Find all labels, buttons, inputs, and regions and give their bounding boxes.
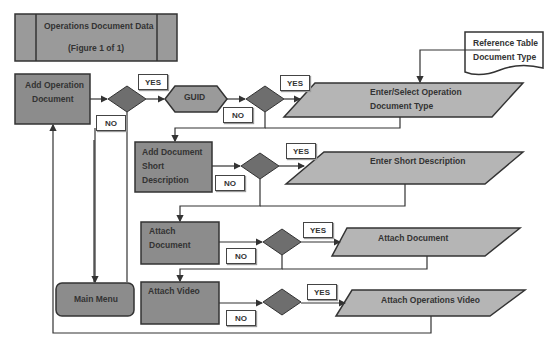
yes-label-1: YES [138, 74, 168, 90]
title-line2: (Figure 1 of 1) [68, 42, 124, 55]
enter-select-l1[interactable]: Enter/Select Operation [370, 86, 462, 99]
enter-select-l2[interactable]: Document Type [370, 100, 433, 113]
add-short-desc-l3[interactable]: Description [142, 174, 189, 187]
attach-operations-video[interactable]: Attach Operations Video [381, 294, 480, 307]
add-short-desc-l1[interactable]: Add Document [142, 146, 202, 159]
yes-label-5: YES [307, 284, 337, 300]
no-label-1: NO [96, 115, 126, 131]
enter-short-description[interactable]: Enter Short Description [370, 155, 465, 168]
main-menu[interactable]: Main Menu [74, 293, 118, 306]
attach-document-io[interactable]: Attach Document [378, 232, 448, 245]
add-operation-document-l2[interactable]: Document [32, 93, 74, 106]
no-label-3: NO [215, 175, 245, 191]
reference-table-l1: Reference Table [473, 37, 538, 50]
attach-document-l2[interactable]: Document [149, 239, 191, 252]
attach-document-l1[interactable]: Attach [149, 225, 175, 238]
add-short-desc-l2[interactable]: Short [142, 160, 164, 173]
attach-video[interactable]: Attach Video [148, 285, 200, 298]
no-label-5: NO [226, 310, 256, 326]
guid-node[interactable]: GUID [184, 91, 205, 104]
yes-label-4: YES [303, 222, 333, 238]
reference-table-l2: Document Type [473, 51, 536, 64]
add-operation-document-l1[interactable]: Add Operation [25, 79, 84, 92]
no-label-4: NO [226, 248, 256, 264]
no-label-2: NO [223, 107, 253, 123]
yes-label-3: YES [286, 143, 316, 159]
title-line1: Operations Document Data [44, 20, 154, 33]
yes-label-2: YES [280, 75, 310, 91]
